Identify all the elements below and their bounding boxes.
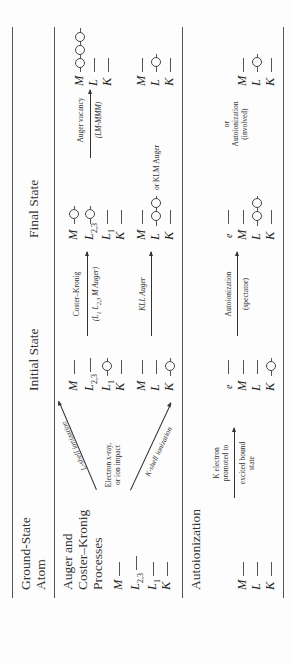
- level-line: [156, 360, 157, 374]
- auger-title-line3: Processes: [90, 510, 105, 590]
- level-line: [257, 562, 258, 576]
- level-label: e: [222, 385, 235, 389]
- coster-kronig-arrow: [87, 252, 88, 336]
- level-line: [107, 210, 108, 224]
- level-label: K: [163, 383, 176, 391]
- header-ground-state-line2: Atom: [33, 517, 48, 590]
- level-label: K: [163, 78, 176, 86]
- vacancy-icon: [75, 45, 85, 55]
- level-line: [271, 562, 272, 576]
- spectator-sub: (spectator): [241, 252, 250, 336]
- level-line: [136, 556, 137, 570]
- level-label: e: [222, 234, 235, 238]
- involved-title: Autoionization: [231, 90, 240, 158]
- level-line: [142, 360, 143, 374]
- l-shell-label: L-shell ionization: [59, 420, 88, 472]
- auger-title-line2: Coster–Kronig: [75, 510, 90, 590]
- auger-vacancy-sub: (LM-MMM): [94, 92, 103, 148]
- section-title-autoionization: Autoionization: [188, 509, 203, 590]
- level-label: M: [236, 381, 249, 391]
- or-klm-text: or KLM Auger: [152, 145, 161, 190]
- level-label: K: [160, 582, 173, 590]
- level-line: [243, 210, 244, 224]
- level-line: [153, 562, 154, 576]
- excitation-label: Electron x-ray, or ion impact: [104, 430, 122, 500]
- level-label: L2,3: [83, 223, 101, 240]
- level-label: M: [236, 230, 249, 240]
- header-rule: [54, 27, 55, 598]
- coster-kronig-sub: (L1 L2,3 M Auger): [91, 252, 103, 336]
- level-line: [271, 58, 272, 72]
- vacancy-icon: [75, 32, 85, 42]
- level-line: [142, 58, 143, 72]
- excitation-line1: Electron x-ray,: [104, 430, 113, 500]
- level-line: [121, 210, 122, 224]
- excitation-line2: or ion impact: [113, 430, 122, 500]
- level-line: [243, 360, 244, 374]
- level-label: L: [250, 233, 263, 240]
- level-label: M: [236, 76, 249, 86]
- top-rule: [12, 27, 13, 598]
- vacancy-icon: [165, 361, 175, 371]
- vacancy-icon: [151, 198, 161, 208]
- vacancy-icon: [69, 209, 79, 219]
- header-final-state: Final State: [26, 180, 41, 238]
- promote-line1: K electron: [212, 428, 221, 498]
- level-label: K: [264, 232, 277, 240]
- level-label: M: [67, 230, 80, 240]
- involved-label: or Autoionization (involved): [222, 90, 249, 158]
- auger-vacancy-label: Auger vacancy: [76, 92, 85, 148]
- vacancy-icon: [151, 57, 161, 67]
- level-label: K: [114, 383, 127, 391]
- level-label: M: [112, 580, 125, 590]
- level-line: [108, 58, 109, 72]
- level-line: [142, 210, 143, 224]
- level-label: M: [236, 580, 249, 590]
- involved-sub: (involved): [240, 90, 249, 158]
- coster-kronig-label: Coster–Kronig: [72, 252, 81, 336]
- level-line: [243, 58, 244, 72]
- vacancy-icon: [85, 209, 95, 219]
- level-label: L2,3: [129, 573, 147, 590]
- section-title-auger: Auger and Coster–Kronig Processes: [60, 510, 105, 590]
- level-label: M: [135, 230, 148, 240]
- level-label: K: [264, 582, 277, 590]
- promote-label: K electron promoted to: [212, 428, 230, 498]
- level-label: M: [135, 76, 148, 86]
- vacancy-icon: [266, 361, 276, 371]
- vacancy-icon: [252, 57, 262, 67]
- level-label: K: [264, 78, 277, 86]
- promote-sub: excited bound state: [238, 428, 256, 498]
- level-label: L: [250, 384, 263, 391]
- vacancy-icon: [75, 58, 85, 68]
- level-label: L2,3: [83, 374, 101, 391]
- header-initial-state: Initial State: [26, 328, 41, 391]
- kll-arrow: [151, 252, 152, 336]
- level-label: M: [67, 381, 80, 391]
- level-line: [119, 562, 120, 576]
- vacancy-icon: [252, 211, 262, 221]
- header-ground-state-line1: Ground-State: [18, 517, 33, 590]
- level-label: K: [163, 232, 176, 240]
- level-line: [228, 210, 229, 224]
- level-line: [228, 360, 229, 374]
- section-divider: [182, 27, 183, 598]
- level-label: L: [149, 79, 162, 86]
- level-line: [170, 210, 171, 224]
- level-line: [74, 360, 75, 374]
- vacancy-icon: [252, 198, 262, 208]
- or-klm-label: or KLM Auger: [152, 145, 161, 190]
- level-label: M: [73, 76, 86, 86]
- promote-sub-line1: excited bound: [238, 428, 247, 498]
- level-line: [243, 562, 244, 576]
- vacancy-icon: [151, 211, 161, 221]
- level-label: K: [101, 78, 114, 86]
- promote-arrow: [234, 428, 235, 498]
- header-ground-state: Ground-State Atom: [18, 517, 48, 590]
- bottom-rule: [283, 27, 284, 598]
- level-line: [94, 58, 95, 72]
- level-line: [121, 360, 122, 374]
- spectator-label: Autoionization: [224, 252, 233, 336]
- level-label: L: [87, 79, 100, 86]
- level-label: L: [250, 583, 263, 590]
